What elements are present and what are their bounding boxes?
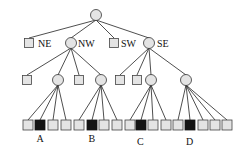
edge-se-child [149, 48, 186, 75]
edge-nw-child [71, 48, 101, 75]
level2-square-node [23, 76, 32, 85]
leaf-node [198, 120, 208, 130]
ne-label: NE [38, 38, 51, 49]
leaf-node [112, 120, 122, 130]
edges-level1 [27, 48, 186, 75]
leaf-node-d [185, 120, 195, 130]
nw-label: NW [78, 38, 95, 49]
level2-circle-node [181, 75, 192, 86]
nw-node [66, 38, 77, 49]
level2-square-node [133, 76, 142, 85]
label-a: A [37, 133, 45, 144]
level2-square-node [116, 76, 125, 85]
leaf-node [222, 120, 232, 130]
leaf-node-a [35, 120, 45, 130]
edges-root [29, 20, 149, 38]
leaf-node [210, 120, 220, 130]
se-node [144, 38, 155, 49]
level2-square-node [75, 76, 84, 85]
edge-se-child [137, 48, 149, 75]
label-d: D [186, 136, 193, 147]
leaf-node [148, 120, 158, 130]
root-node [91, 10, 102, 21]
leaf-node [48, 120, 58, 130]
leaf-node [125, 120, 135, 130]
leaf-node-b [87, 120, 97, 130]
level2-circle-node [146, 75, 157, 86]
edges-level2 [28, 85, 227, 120]
level2-circle-node [53, 75, 64, 86]
leaf-row [23, 120, 232, 130]
edge-root-se [96, 20, 149, 38]
leaf-node [161, 120, 171, 130]
edge-se-child [149, 48, 151, 75]
sw-node [110, 39, 119, 48]
leaf-node-c [136, 120, 146, 130]
leaf-node [99, 120, 109, 130]
se-label: SE [157, 38, 169, 49]
edge-root-nw [71, 20, 96, 38]
quadtree-diagram: NE NW SW SE A B C D [0, 0, 244, 161]
leaf-node [173, 120, 183, 130]
ne-node [25, 39, 34, 48]
edge-root-ne [29, 20, 96, 38]
level2-circle-node [96, 75, 107, 86]
leaf-node [23, 120, 33, 130]
leaf-node [61, 120, 71, 130]
leaf-node [74, 120, 84, 130]
sw-label: SW [121, 38, 137, 49]
label-c: C [137, 136, 144, 147]
label-b: B [89, 133, 96, 144]
edge-se-child [120, 48, 149, 75]
